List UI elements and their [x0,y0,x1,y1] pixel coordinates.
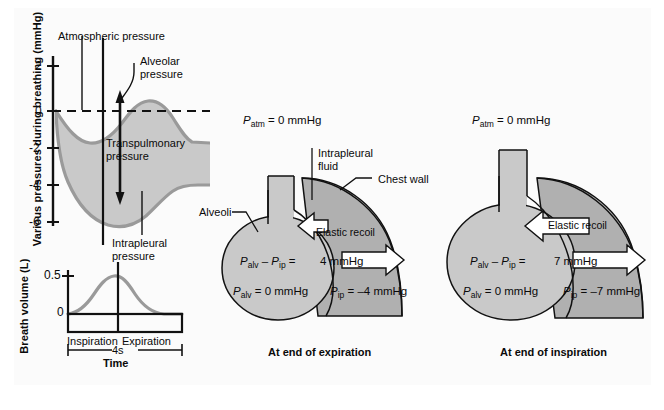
expiration-gradient-equation: Palv – Pip = [240,255,296,271]
breath-volume-curve [68,276,182,314]
expiration-p-alv-label: Palv = 0 mmHg [233,285,308,301]
volume-y-tick-half: 0.5 [44,269,61,282]
pressure-y-tick-neg4: -4 [29,179,40,192]
pressure-y-tick-2: 2 [35,60,42,73]
inspiration-p-ip-label: Pip = –7 mmHg [563,285,640,301]
p-alv-value-symbol: P [233,285,241,297]
inspiration-gradient-value: 7 mmHg [554,255,597,268]
p-atm-value-inspiration: = 0 mmHg [494,114,551,126]
p-alv-value-text: = 0 mmHg [252,285,309,297]
p-atm-symbol-inspiration: P [472,114,480,126]
p-alv-value-subscript-inspiration: alv [471,290,482,300]
transpulmonary-pressure-label-line1: Transpulmonary [106,137,185,149]
atmospheric-pressure-label: Atmospheric pressure [58,30,165,42]
time-axis-label: Time [103,357,128,369]
transpulmonary-shaded-band [56,101,210,227]
volume-chart-y-axis-label: Breath volume (L) [18,246,30,366]
p-ip-value-symbol: P [330,285,338,297]
p-alv-subscript-inspiration: alv [478,260,489,270]
phase-label-expiration: Expiration [122,335,171,347]
phase-label-inspiration: Inspiration [67,335,118,347]
duration-label: 4s [112,344,124,356]
p-alv-value-text-inspiration: = 0 mmHg [482,285,539,297]
pressure-y-tick-neg6: -6 [29,216,40,229]
intrapleural-fluid-label-line1: Intrapleural [318,147,373,159]
intrapleural-fluid-label-line2: fluid [318,160,338,172]
intrapleural-pressure-label-line2: pressure [112,250,155,262]
p-ip-value-text-inspiration: = –7 mmHg [577,285,640,297]
phase-box [68,314,182,332]
p-atm-value: = 0 mmHg [265,114,322,126]
pressure-y-tick-0: 0 [35,105,42,118]
p-ip-symbol-inspiration: P [501,255,509,267]
expiration-p-atm-label: Patm = 0 mmHg [243,114,321,130]
minus-operator: – [259,255,272,267]
inspiration-caption: At end of inspiration [500,346,607,358]
equals-operator-inspiration: = [516,255,526,267]
p-ip-value-symbol-inspiration: P [563,285,571,297]
p-alv-subscript: alv [248,260,259,270]
minus-operator-inspiration: – [489,255,502,267]
alveoli-label: Alveoli [199,206,231,218]
inspiration-elastic-recoil-label: Elastic recoil [548,220,607,232]
end-of-inspiration-diagram [425,100,660,340]
p-alv-value-subscript: alv [241,290,252,300]
end-of-expiration-diagram [190,100,420,340]
p-alv-symbol: P [240,255,248,267]
chest-wall-leader [340,178,372,190]
expiration-gradient-value: 4 mmHg [320,255,363,268]
intrapleural-pressure-label-line1: Intrapleural [112,237,167,249]
p-alv-value-symbol-inspiration: P [463,285,471,297]
inspiration-p-atm-label: Patm = 0 mmHg [472,114,550,130]
p-atm-subscript-inspiration: atm [480,119,494,129]
expiration-caption: At end of expiration [268,346,371,358]
p-ip-subscript-inspiration: ip [509,260,516,270]
volume-y-tick-zero: 0 [57,306,64,319]
equals-operator: = [286,255,296,267]
alveolar-pressure-label-line1: Alveolar [140,55,180,67]
p-atm-symbol: P [243,114,251,126]
p-alv-symbol-inspiration: P [470,255,478,267]
inspiration-p-alv-label: Palv = 0 mmHg [463,285,538,301]
alveolar-pressure-label-line2: pressure [140,68,183,80]
transpulmonary-pressure-label-line2: pressure [106,150,149,162]
p-ip-value-text: = –4 mmHg [344,285,407,297]
inspiration-gradient-equation: Palv – Pip = [470,255,526,271]
expiration-elastic-recoil-label: Elastic recoil [316,227,375,239]
chest-wall-label: Chest wall [378,173,429,185]
p-atm-subscript: atm [251,119,265,129]
expiration-p-ip-label: Pip = –4 mmHg [330,285,407,301]
alveolar-pressure-leader [122,63,134,98]
p-ip-symbol: P [271,255,279,267]
p-ip-subscript: ip [279,260,286,270]
pressure-y-tick-neg2: -2 [29,142,40,155]
respiratory-pressures-figure: Various pressures during breathing (mmHg… [0,0,664,410]
